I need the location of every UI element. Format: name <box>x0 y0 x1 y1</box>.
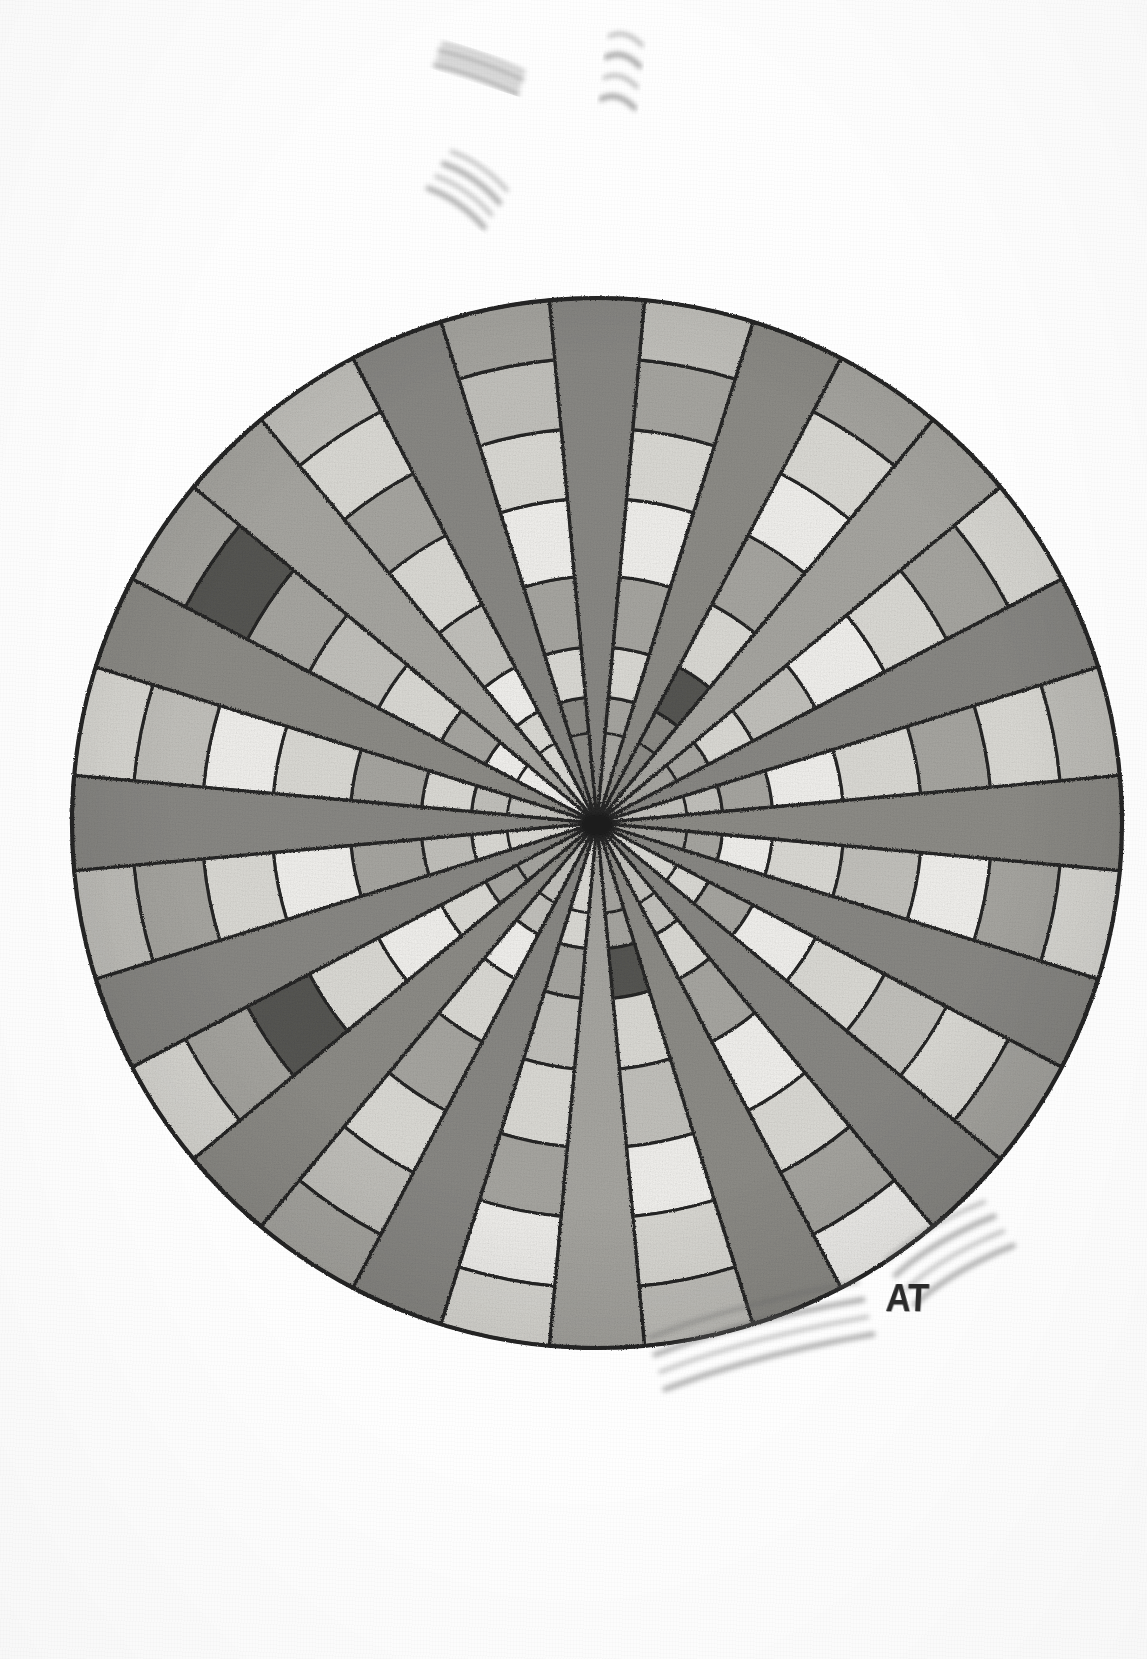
artist-signature: AT <box>885 1277 929 1320</box>
mark-upper-left <box>426 149 510 227</box>
mandala-drawing <box>0 0 1147 1659</box>
mark-top-left <box>435 42 525 93</box>
mark-top-center <box>601 32 644 108</box>
mandala-root <box>72 298 1122 1348</box>
center-convergence-point <box>581 814 613 836</box>
artboard: AT <box>0 0 1147 1659</box>
